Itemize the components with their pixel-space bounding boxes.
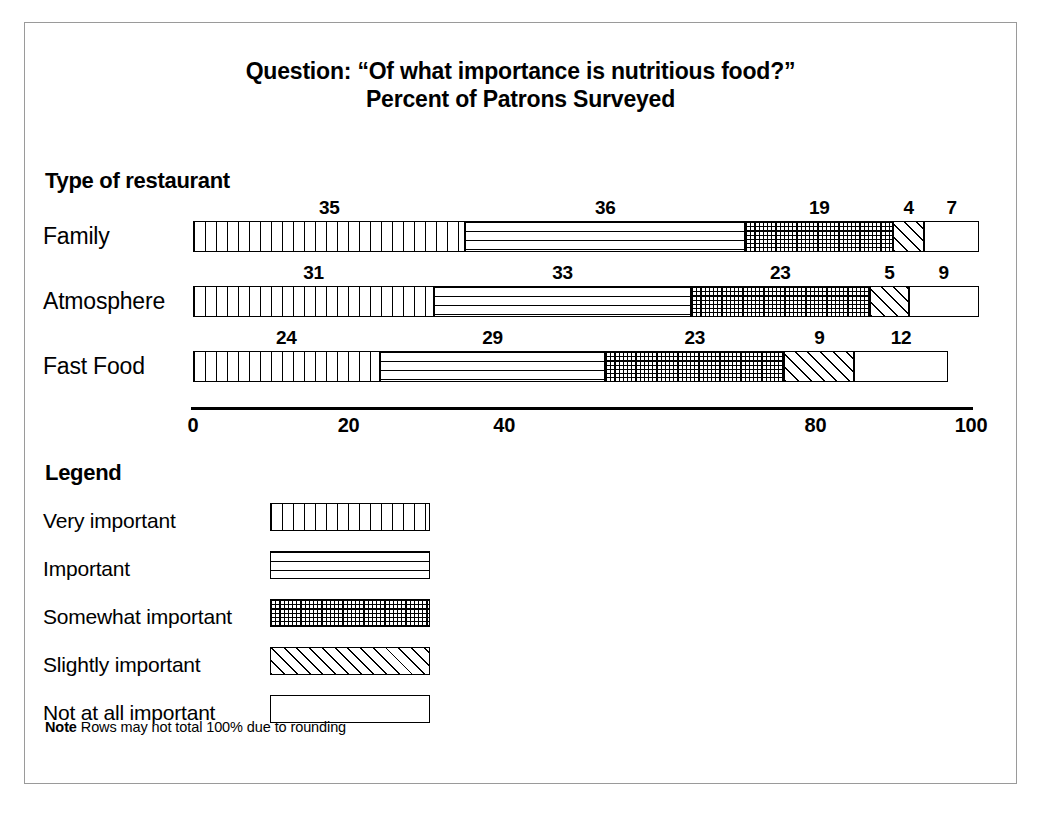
bar-segment (909, 286, 979, 317)
legend-swatch (270, 551, 430, 579)
bar-row: Atmosphere31332359 (25, 264, 1016, 328)
bar-segment (193, 221, 465, 252)
bar-segment (691, 286, 870, 317)
stacked-bar (193, 351, 971, 382)
bar-segment (434, 286, 691, 317)
bar-segment-value: 33 (434, 263, 691, 283)
bar-row: Family35361947 (25, 199, 1016, 263)
bar-segment (854, 351, 947, 382)
bar-segment-value: 36 (465, 198, 745, 218)
axis-tick-label: 20 (319, 413, 379, 437)
category-axis-title: Type of restaurant (45, 168, 230, 194)
bar-row: Fast Food242923912 (25, 329, 1016, 393)
legend-item: Slightly important (25, 643, 1016, 691)
stacked-bar (193, 221, 971, 252)
bar-segment (924, 221, 978, 252)
bar-segment-value: 29 (380, 328, 606, 348)
bar-segment (465, 221, 745, 252)
footnote-label: Note (45, 719, 81, 735)
chart-title: Question: “Of what importance is nutriti… (25, 57, 1016, 113)
legend-swatch (270, 599, 430, 627)
bar-segment (870, 286, 909, 317)
bar-row-label: Family (43, 223, 185, 250)
bar-segment-value: 23 (691, 263, 870, 283)
bar-segment (784, 351, 854, 382)
legend-heading: Legend (45, 460, 121, 486)
footnote-text: Rows may not total 100% due to rounding (81, 719, 346, 735)
footnote: Note Rows may not total 100% due to roun… (45, 719, 346, 735)
bar-segment-value: 7 (924, 198, 978, 218)
bar-segment-value: 35 (193, 198, 465, 218)
legend-item: Somewhat important (25, 595, 1016, 643)
bar-segment (193, 286, 434, 317)
legend-item-label: Somewhat important (43, 605, 232, 629)
figure-frame: Question: “Of what importance is nutriti… (24, 22, 1017, 784)
value-axis: 0204080100 (25, 407, 1016, 453)
legend-swatch (270, 503, 430, 531)
bar-segment-value: 9 (784, 328, 854, 348)
bar-segment (193, 351, 380, 382)
legend-item-label: Important (43, 557, 130, 581)
bar-segment-value: 19 (745, 198, 893, 218)
bar-segment-value: 24 (193, 328, 380, 348)
bar-segment (893, 221, 924, 252)
bar-segment (745, 221, 893, 252)
bar-segment-value: 5 (870, 263, 909, 283)
bar-segment-value: 12 (854, 328, 947, 348)
bar-segment-value: 31 (193, 263, 434, 283)
bar-row-label: Atmosphere (43, 288, 185, 315)
bar-segment (605, 351, 784, 382)
legend-item-label: Slightly important (43, 653, 200, 677)
axis-tick-label: 100 (941, 413, 1001, 437)
title-line-1: Question: “Of what importance is nutriti… (25, 57, 1016, 85)
bar-segment-value: 23 (605, 328, 784, 348)
axis-tick-label: 0 (163, 413, 223, 437)
axis-tick-label: 80 (785, 413, 845, 437)
legend-item: Important (25, 547, 1016, 595)
legend-item: Very important (25, 499, 1016, 547)
bar-segment-value: 4 (893, 198, 924, 218)
bar-segment (380, 351, 606, 382)
axis-tick-label: 40 (474, 413, 534, 437)
title-line-2: Percent of Patrons Surveyed (25, 85, 1016, 113)
legend-item-label: Very important (43, 509, 176, 533)
axis-line (191, 407, 973, 410)
bar-segment-value: 9 (909, 263, 979, 283)
bar-row-label: Fast Food (43, 353, 185, 380)
legend-swatch (270, 647, 430, 675)
stacked-bar (193, 286, 971, 317)
